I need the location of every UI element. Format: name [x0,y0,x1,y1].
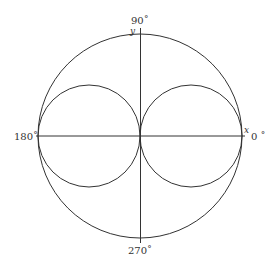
polar-diagram: 90˚ 270˚ 180˚ 0 ˚ x y [0,0,277,267]
label-270-degrees: 270˚ [128,245,152,256]
label-90-degrees: 90˚ [131,15,149,26]
y-axis-label: y [129,26,136,36]
label-0-degrees: 0 ˚ [251,131,266,142]
x-axis-label: x [244,125,249,135]
label-180-degrees: 180˚ [14,131,38,142]
